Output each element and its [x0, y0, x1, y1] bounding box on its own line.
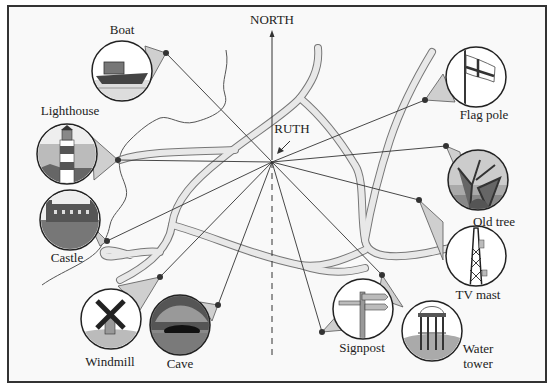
boat-label: Boat [110, 22, 135, 37]
bearings-diagram: NORTH RUTH [0, 0, 553, 389]
map-canvas: NORTH RUTH [0, 0, 553, 389]
cave-label: Cave [167, 356, 194, 371]
lighthouse-label: Lighthouse [41, 103, 100, 118]
water-tower-label-line2: tower [463, 356, 493, 371]
landmark-signpost [333, 279, 393, 340]
flag-pole-label: Flag pole [460, 107, 509, 122]
ruth-label: RUTH [274, 121, 309, 136]
signpost-label: Signpost [339, 340, 385, 355]
windmill-label: Windmill [85, 354, 135, 369]
castle-label: Castle [51, 250, 84, 265]
north-label: NORTH [250, 12, 294, 27]
tv-mast-label: TV mast [456, 287, 501, 302]
water-tower-label-line1: Water [463, 341, 494, 356]
old-tree-label: Old tree [473, 214, 515, 229]
